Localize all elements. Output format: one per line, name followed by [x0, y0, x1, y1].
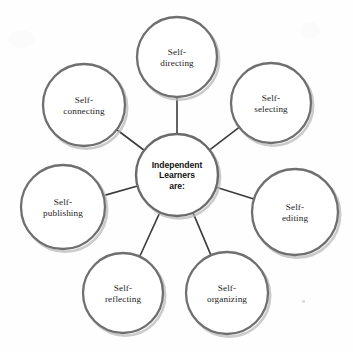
node-label-self-reflecting-line: Self- [114, 283, 132, 293]
hub-label-line: Learners [159, 170, 195, 180]
node-label-self-editing-line: editing [282, 213, 309, 223]
node-self-selecting[interactable]: Self-selecting [231, 63, 313, 146]
node-label-self-selecting-line: Self- [262, 93, 280, 103]
spoke-self-editing [217, 188, 253, 199]
node-self-publishing[interactable]: Self-publishing [21, 165, 107, 252]
node-label-self-connecting-line: Self- [75, 95, 93, 105]
node-self-editing[interactable]: Self-editing [252, 169, 340, 258]
spoke-self-connecting [118, 130, 144, 149]
node-label-self-directing-line: directing [160, 58, 194, 68]
node-label-self-directing-line: Self- [168, 47, 186, 57]
diagram-canvas: Self-directingSelf-selectingSelf-editing… [0, 0, 353, 352]
hub-group: IndependentLearnersare: [136, 134, 220, 218]
node-self-reflecting[interactable]: Self-reflecting [83, 253, 165, 336]
spoke-self-reflecting [140, 213, 159, 256]
node-label-self-connecting-line: connecting [63, 106, 105, 116]
hub-label-line: Independent [152, 160, 203, 170]
node-label-self-organizing-line: organizing [207, 294, 247, 304]
node-label-self-selecting-line: selecting [254, 104, 288, 114]
mind-map-diagram: Self-directingSelf-selectingSelf-editing… [0, 0, 353, 352]
spoke-self-organizing [193, 214, 210, 255]
spoke-self-publishing [104, 186, 136, 195]
node-label-self-publishing-line: Self- [54, 197, 72, 207]
hub-label-line: are: [169, 181, 185, 191]
node-label-self-reflecting-line: reflecting [105, 294, 142, 304]
node-label-self-publishing-line: publishing [43, 208, 83, 218]
node-self-connecting[interactable]: Self-connecting [43, 64, 127, 149]
hub-node[interactable]: IndependentLearnersare: [136, 134, 220, 218]
node-label-self-organizing-line: Self- [218, 283, 236, 293]
node-self-organizing[interactable]: Self-organizing [186, 252, 270, 337]
node-self-directing[interactable]: Self-directing [137, 17, 219, 100]
node-label-self-editing-line: Self- [286, 202, 304, 212]
spoke-self-selecting [210, 128, 238, 150]
